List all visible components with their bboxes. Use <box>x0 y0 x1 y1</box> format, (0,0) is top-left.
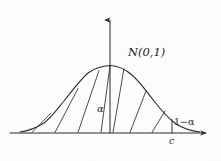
hatching-alpha <box>32 66 165 132</box>
critical-value-label: c <box>169 136 174 146</box>
normal-distribution-figure: N(0,1) α 1−α c <box>0 0 221 161</box>
alpha-area-label: α <box>97 104 104 114</box>
one-minus-alpha-label: 1−α <box>174 117 194 127</box>
figure-canvas <box>0 0 221 161</box>
distribution-label: N(0,1) <box>128 47 165 59</box>
